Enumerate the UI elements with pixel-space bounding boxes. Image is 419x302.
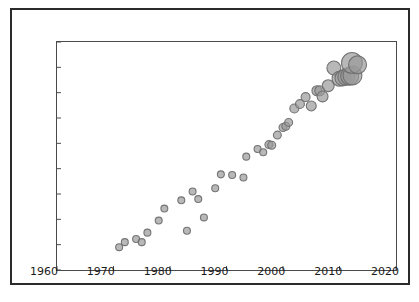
x-tick-label: 2010 [314, 266, 342, 277]
x-tick-label: 1990 [201, 266, 229, 277]
x-tick-label: 1960 [30, 266, 58, 277]
x-tick-label: 2020 [371, 266, 399, 277]
figure-root: 681012141618202224 196019701980199020002… [0, 0, 419, 302]
figure-frame: 681012141618202224 196019701980199020002… [10, 8, 410, 285]
x-tick-label: 1970 [87, 266, 115, 277]
x-tick-label: 1980 [144, 266, 172, 277]
x-tick-label: 2000 [257, 266, 285, 277]
x-axis-tick-labels: 1960197019801990200020102020 [12, 10, 419, 302]
